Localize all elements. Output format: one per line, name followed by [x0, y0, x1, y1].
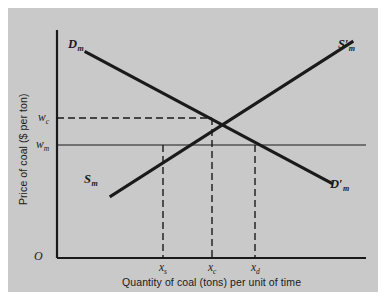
plot-area	[0, 0, 390, 300]
supply-bottom-subscript: m	[91, 179, 97, 188]
demand-bottom-prime: ′	[339, 177, 342, 191]
supply-bottom-symbol: S	[84, 172, 91, 186]
demand-curve-label-bottom: D′m	[330, 178, 349, 191]
x-tick-label-xs: xs	[159, 262, 167, 274]
x-tick-label-xc: xc	[208, 262, 216, 274]
y-tick-wm-subscript: m	[44, 144, 49, 153]
x-tick-label-xd: xd	[251, 262, 260, 274]
x-tick-xd-subscript: d	[256, 267, 260, 276]
demand-curve-label-top: Dm	[68, 38, 83, 51]
demand-top-subscript: m	[78, 44, 84, 53]
y-tick-wc-symbol: w	[38, 111, 46, 123]
supply-top-subscript: m	[349, 44, 355, 53]
y-axis-title: Price of coal ($ per ton)	[18, 64, 29, 234]
y-tick-wm-symbol: w	[36, 138, 44, 150]
y-tick-wc-subscript: c	[46, 117, 49, 126]
demand-curve	[86, 52, 331, 183]
supply-curve-label-bottom: Sm	[84, 173, 97, 186]
x-tick-xc-subscript: c	[213, 267, 216, 276]
demand-bottom-subscript: m	[343, 184, 349, 193]
x-tick-xs-subscript: s	[164, 267, 167, 276]
figure-container: Price of coal ($ per ton) Quantity of co…	[0, 0, 390, 300]
demand-top-symbol: D	[68, 37, 77, 51]
origin-label: O	[34, 250, 43, 262]
supply-curve-label-top: S′m	[338, 38, 355, 51]
y-tick-label-wc: wc	[38, 112, 49, 124]
supply-curve	[111, 42, 352, 196]
supply-top-symbol: S	[338, 37, 345, 51]
demand-bottom-symbol: D	[330, 177, 339, 191]
y-tick-label-wm: wm	[36, 139, 49, 151]
supply-top-prime: ′	[345, 37, 348, 51]
x-axis-title: Quantity of coal (tons) per unit of time	[122, 277, 301, 288]
